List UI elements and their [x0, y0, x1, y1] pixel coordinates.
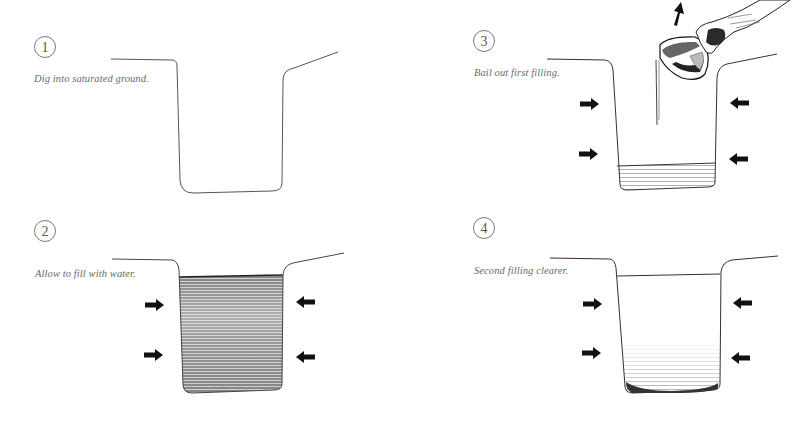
step-number-3: 3: [473, 30, 495, 52]
panel-3-seepage-arrows: [579, 97, 749, 165]
step-caption-1: Dig into saturated ground.: [34, 73, 149, 84]
diagram-canvas: [0, 0, 807, 424]
seepage-arrow-icon: [731, 352, 750, 364]
step-caption-4: Second filling clearer.: [474, 265, 568, 276]
seepage-arrow-icon: [733, 297, 752, 309]
panel-2-trench: [112, 253, 344, 393]
seepage-arrow-icon: [144, 349, 163, 361]
seepage-arrow-icon: [729, 153, 748, 165]
panel-3-trench: [547, 54, 777, 190]
step-number-2: 2: [34, 220, 56, 242]
step-caption-2: Allow to fill with water.: [35, 268, 136, 279]
seepage-well-diagram: 1 2 3 4 Dig into saturated ground. Allow…: [0, 0, 807, 424]
seepage-arrow-icon: [579, 148, 598, 160]
up-arrow-icon: [674, 2, 684, 26]
seepage-arrow-icon: [583, 298, 602, 310]
seepage-arrow-icon: [145, 299, 164, 311]
step-number-4: 4: [473, 217, 495, 239]
step-number-1: 1: [34, 36, 56, 58]
panel-4-trench: [550, 256, 778, 393]
step-caption-3: Bail out first filling.: [474, 67, 560, 78]
seepage-arrow-icon: [296, 296, 315, 308]
seepage-arrow-icon: [582, 347, 601, 359]
seepage-arrow-icon: [580, 98, 599, 110]
seepage-arrow-icon: [730, 97, 749, 109]
seepage-arrow-icon: [296, 351, 315, 363]
